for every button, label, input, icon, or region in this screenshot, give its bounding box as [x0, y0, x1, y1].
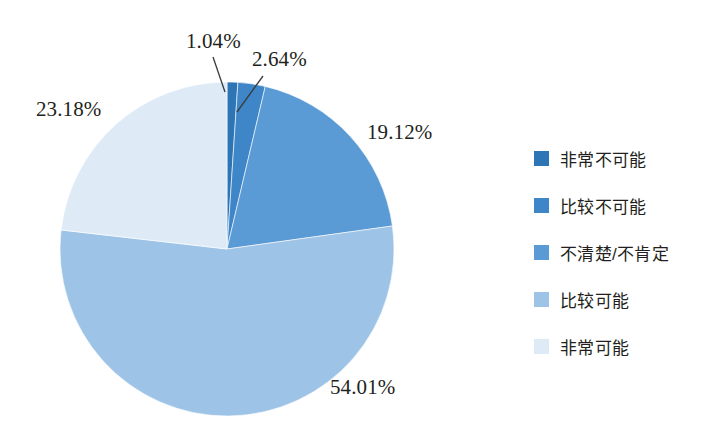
data-label-bi-jiao-bu-ke-neng: 2.64% — [252, 47, 307, 72]
legend-item[interactable]: 比较可能 — [534, 279, 720, 319]
legend-swatch-icon — [534, 245, 549, 260]
legend-item[interactable]: 比较不可能 — [534, 185, 720, 225]
legend-item-label: 比较不可能 — [560, 193, 647, 218]
legend-item[interactable]: 非常可能 — [534, 326, 720, 366]
legend-item[interactable]: 非常不可能 — [534, 138, 720, 178]
legend-item-label: 比较可能 — [560, 287, 629, 312]
legend-swatch-icon — [534, 198, 549, 213]
pie-chart-figure: 1.04% 2.64% 19.12% 54.01% 23.18% 非常不可能比较… — [0, 0, 728, 442]
data-label-bu-qing-chu: 19.12% — [367, 120, 432, 145]
pie-slices-group — [60, 82, 394, 416]
legend-swatch-icon — [534, 151, 549, 166]
legend-swatch-icon — [534, 292, 549, 307]
data-label-fei-chang-ke-neng: 23.18% — [36, 97, 101, 122]
legend-item-label: 非常可能 — [560, 334, 629, 359]
data-label-non-chang-bu-ke-neng: 1.04% — [186, 29, 241, 54]
legend-item-label: 非常不可能 — [560, 146, 647, 171]
data-label-bi-jiao-ke-neng: 54.01% — [330, 375, 395, 400]
pie-svg — [60, 82, 394, 416]
legend-swatch-icon — [534, 339, 549, 354]
pie-chart-area — [60, 82, 394, 416]
legend-item[interactable]: 不清楚/不肯定 — [534, 232, 720, 272]
legend-item-label: 不清楚/不肯定 — [560, 240, 669, 265]
chart-legend: 非常不可能比较不可能不清楚/不肯定比较可能非常可能 — [534, 138, 720, 373]
